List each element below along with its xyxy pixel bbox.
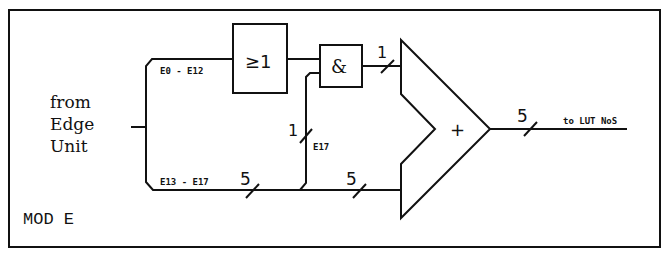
tap-width: 1 bbox=[288, 121, 298, 140]
block-diagram: from Edge Unit E0 - E12 E13 - E17 ≥1 & 1… bbox=[0, 0, 671, 261]
source-label-line1: from bbox=[50, 92, 91, 112]
adder-label: + bbox=[450, 119, 465, 140]
upper-bus-label: E0 - E12 bbox=[160, 66, 203, 76]
lower-right-width: 5 bbox=[346, 169, 357, 189]
lower-left-width: 5 bbox=[240, 169, 251, 189]
and-gate-label: & bbox=[331, 56, 347, 77]
or-gate-label: ≥1 bbox=[245, 51, 272, 72]
and-out-width: 1 bbox=[377, 43, 387, 62]
source-label-line3: Unit bbox=[50, 136, 88, 156]
output-label: to LUT NoS bbox=[563, 116, 617, 126]
module-label: MOD E bbox=[23, 210, 74, 229]
tap-label: E17 bbox=[313, 142, 329, 152]
output-width: 5 bbox=[517, 106, 528, 126]
lower-bus-label: E13 - E17 bbox=[160, 177, 209, 187]
adder bbox=[401, 40, 490, 218]
source-label-line2: Edge bbox=[50, 114, 94, 134]
